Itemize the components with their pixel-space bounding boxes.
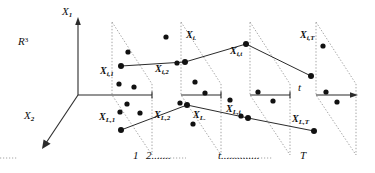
lower-node-1 — [118, 127, 124, 133]
plane-t-outline — [250, 22, 290, 155]
point-label-lower-t: XL,t — [226, 104, 241, 116]
scatter-point — [202, 90, 207, 95]
scatter-point — [323, 89, 328, 94]
scatter-point — [320, 43, 325, 48]
point-label-lower-1: XL,1 — [99, 112, 115, 124]
lower-node-t — [245, 115, 251, 121]
upper-node-T — [308, 73, 314, 79]
point-label-upper-mid: Xi. — [186, 30, 196, 42]
scatter-point — [116, 81, 121, 86]
plane-label-2: 2....... — [146, 150, 171, 161]
scatter-point — [192, 79, 197, 84]
point-label-lower-2: XL,2 — [154, 110, 170, 122]
point-label-lower-T: XL,T — [292, 114, 309, 126]
plane-2-outline — [181, 22, 221, 155]
scatter-point — [137, 110, 142, 115]
plane-label-t: t.............. — [218, 150, 260, 161]
x1-axis-arrowhead — [75, 17, 81, 25]
x2-axis-label: X2 — [24, 110, 34, 123]
point-label-upper-2: Xi,2 — [155, 64, 169, 76]
lower-node-2 — [184, 102, 190, 108]
point-label-upper-t: Xi,t — [230, 46, 242, 58]
plane-label-T: T — [300, 150, 306, 161]
scatter-point — [255, 89, 260, 94]
scatter-point — [117, 109, 122, 114]
upper-node-2b — [174, 60, 179, 65]
lower-node-T — [311, 128, 317, 134]
scatter-point — [334, 99, 339, 104]
upper-node-1 — [118, 63, 124, 69]
t-axis-label: t — [298, 82, 301, 93]
lower-node-2b — [177, 100, 182, 105]
space-label: R3 — [18, 36, 28, 47]
plane-label-1: 1 — [133, 150, 139, 161]
upper-trajectory-nodes — [118, 41, 314, 79]
lower-trajectory-nodes — [118, 100, 317, 134]
scatter-point — [131, 84, 136, 89]
scatter-point — [190, 121, 195, 126]
t-axis-arrowhead — [350, 92, 358, 98]
diagram-svg — [0, 0, 375, 173]
scatter-point — [270, 98, 275, 103]
x1-axis-label: X1 — [62, 6, 72, 19]
figure-canvas: R3 X1 X2 t Xi,1 Xi,2 Xi. Xi,t Xi,T XL,1 … — [0, 0, 375, 173]
point-label-upper-1: Xi,1 — [100, 66, 114, 78]
x2-axis-arrowhead — [42, 140, 51, 149]
time-slice-planes — [112, 22, 356, 155]
scatter-point — [125, 49, 130, 54]
upper-trajectory-line — [121, 44, 311, 76]
upper-node-2 — [182, 59, 188, 65]
scatter-point — [124, 101, 129, 106]
point-label-lower-mid: XL. — [193, 110, 206, 122]
lower-trajectory-line — [121, 105, 314, 131]
upper-node-t — [243, 41, 249, 47]
scatter-point — [227, 97, 232, 102]
point-label-upper-T: Xi,T — [300, 30, 315, 42]
scatter-point — [163, 34, 168, 39]
plane-T-outline — [316, 22, 356, 155]
x2-axis-line — [46, 95, 78, 143]
